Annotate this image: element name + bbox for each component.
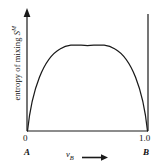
x-axis-direction-arrow-icon xyxy=(82,154,108,160)
y-axis-superscript: M xyxy=(11,26,17,31)
x-axis-title: vB xyxy=(66,150,74,161)
component-label-a: A xyxy=(24,148,30,157)
entropy-of-mixing-figure: entropy of mixing SM vB 0 1.0 A B xyxy=(0,0,165,168)
component-label-b: B xyxy=(143,148,149,157)
x-tick-label-left: 0 xyxy=(23,134,28,143)
y-axis-symbol: S xyxy=(12,31,22,35)
y-axis-title-text: entropy of mixing xyxy=(12,37,22,100)
y-axis-arrowhead-icon xyxy=(24,8,31,17)
x-arrow-head xyxy=(101,154,108,160)
x-tick-label-right: 1.0 xyxy=(139,134,150,143)
entropy-curve xyxy=(28,45,148,131)
x-axis-subscript: B xyxy=(70,154,74,161)
y-axis-title: entropy of mixing SM xyxy=(11,7,21,119)
